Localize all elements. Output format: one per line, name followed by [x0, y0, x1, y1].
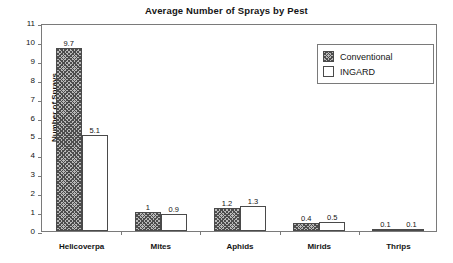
bar-value-label: 1 — [146, 203, 150, 212]
bar-value-label: 0.9 — [169, 205, 179, 214]
x-axis-label: Mirids — [280, 242, 359, 251]
y-tick-label: 0 — [11, 227, 35, 236]
x-tick-mark — [359, 231, 360, 235]
legend-item-conventional: Conventional — [323, 49, 428, 64]
y-tick-label: 4 — [11, 151, 35, 160]
y-tick-label: 9 — [11, 57, 35, 66]
legend-label-ingard: INGARD — [340, 67, 375, 77]
plot-area: Number of Sprays 01234567891011 Helicove… — [41, 24, 437, 232]
y-tick-label: 6 — [11, 114, 35, 123]
y-tick-mark — [38, 157, 42, 158]
y-tick-mark — [38, 214, 42, 215]
bar-value-label: 0.5 — [327, 213, 337, 222]
x-axis-label: Mites — [121, 242, 200, 251]
y-tick-label: 10 — [11, 38, 35, 47]
bar-mites-ingard: 0.9 — [161, 214, 187, 231]
y-tick-mark — [38, 195, 42, 196]
bar-aphids-ingard: 1.3 — [240, 206, 266, 231]
y-tick-mark — [38, 233, 42, 234]
chart-legend: Conventional INGARD — [317, 44, 434, 84]
legend-swatch-conventional-icon — [323, 51, 334, 62]
bar-mites-conventional: 1 — [135, 212, 161, 231]
y-tick-mark — [38, 25, 42, 26]
bar-thrips-ingard: 0.1 — [398, 229, 424, 231]
x-tick-mark — [121, 231, 122, 235]
bar-value-label: 1.2 — [222, 199, 232, 208]
y-tick-mark — [38, 82, 42, 83]
bar-value-label: 0.1 — [406, 220, 416, 229]
y-tick-mark — [38, 120, 42, 121]
bar-value-label: 9.7 — [63, 39, 73, 48]
x-axis-label: Helicoverpa — [42, 242, 121, 251]
y-tick-label: 7 — [11, 95, 35, 104]
y-tick-mark — [38, 176, 42, 177]
bar-thrips-conventional: 0.1 — [372, 229, 398, 231]
bar-value-label: 1.3 — [248, 197, 258, 206]
bar-value-label: 0.4 — [301, 214, 311, 223]
bar-helicoverpa-ingard: 5.1 — [82, 135, 108, 231]
bar-value-label: 5.1 — [89, 126, 99, 135]
y-tick-label: 3 — [11, 170, 35, 179]
bar-mirids-ingard: 0.5 — [319, 222, 345, 231]
bar-aphids-conventional: 1.2 — [214, 208, 240, 231]
y-tick-label: 1 — [11, 208, 35, 217]
bar-value-label: 0.1 — [380, 220, 390, 229]
y-tick-mark — [38, 44, 42, 45]
y-tick-label: 2 — [11, 189, 35, 198]
y-tick-mark — [38, 63, 42, 64]
y-tick-label: 8 — [11, 76, 35, 85]
y-tick-mark — [38, 101, 42, 102]
legend-item-ingard: INGARD — [323, 64, 428, 79]
y-tick-label: 5 — [11, 132, 35, 141]
x-tick-mark — [280, 231, 281, 235]
x-tick-mark — [200, 231, 201, 235]
y-tick-label: 11 — [11, 19, 35, 28]
legend-swatch-ingard-icon — [323, 66, 334, 77]
bar-helicoverpa-conventional: 9.7 — [56, 48, 82, 231]
chart-title: Average Number of Sprays by Pest — [0, 5, 453, 16]
y-tick-mark — [38, 138, 42, 139]
x-axis-label: Thrips — [359, 242, 438, 251]
chart-root: Average Number of Sprays by Pest Number … — [0, 0, 453, 263]
x-axis-label: Aphids — [200, 242, 279, 251]
legend-label-conventional: Conventional — [340, 52, 393, 62]
bar-mirids-conventional: 0.4 — [293, 223, 319, 231]
